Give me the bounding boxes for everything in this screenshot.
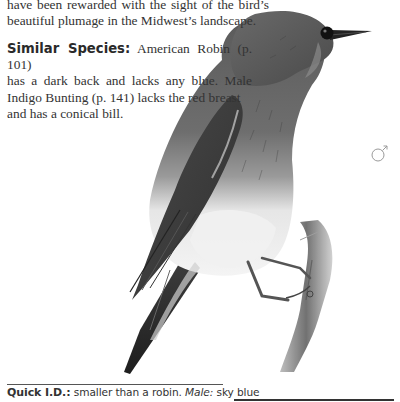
- quick-id-text-1: smaller than a robin.: [71, 386, 186, 398]
- male-symbol-icon: [370, 142, 390, 164]
- quick-id-divider: [7, 384, 223, 385]
- quick-id: Quick I.D.: smaller than a robin. Male: …: [7, 386, 260, 399]
- similar-species-line-4: and has a conical bill.: [7, 106, 252, 122]
- quick-id-label: Quick I.D.:: [7, 386, 71, 399]
- intro-line-1: have been rewarded with the sight of the…: [7, 0, 269, 13]
- quick-id-text-2: sky blue: [213, 386, 259, 398]
- similar-species-section: Similar Species: American Robin (p. 101)…: [7, 41, 252, 122]
- similar-species-heading: Similar Species:: [7, 41, 130, 56]
- page-rule: [234, 399, 394, 401]
- quick-id-male-label: Male:: [185, 386, 213, 398]
- similar-species-line-3: Indigo Bunting (p. 141) lacks the red br…: [7, 90, 252, 106]
- branch: [280, 220, 332, 372]
- similar-species-line-1: Similar Species: American Robin (p. 101): [7, 41, 252, 73]
- similar-species-line-2: has a dark back and lacks any blue. Male: [7, 73, 252, 89]
- intro-line-2: beautiful plumage in the Midwest’s lands…: [7, 13, 269, 29]
- intro-paragraph: have been rewarded with the sight of the…: [7, 0, 269, 29]
- field-guide-page: have been rewarded with the sight of the…: [0, 0, 400, 402]
